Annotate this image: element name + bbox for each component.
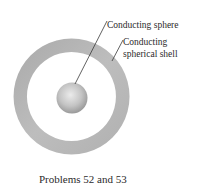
- figure-caption: Problems 52 and 53: [39, 173, 127, 185]
- shell-label-line1: Conducting: [123, 37, 168, 47]
- shell-leader-line: [112, 40, 123, 61]
- shell-label-line2: spherical shell: [123, 49, 178, 59]
- conducting-sphere: [57, 83, 88, 114]
- sphere-label: Conducting sphere: [107, 20, 179, 30]
- figure-diagram: Conducting sphere Conducting spherical s…: [0, 0, 218, 191]
